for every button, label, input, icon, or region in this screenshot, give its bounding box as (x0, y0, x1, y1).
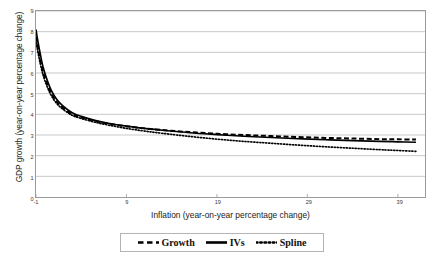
x-axis-tick-label: 9 (125, 199, 128, 205)
x-axis-tick-label: 19 (215, 199, 221, 205)
legend-item-spline[interactable]: Spline (256, 237, 307, 248)
x-axis-tick-label: 39 (397, 199, 403, 205)
y-axis-tick-label: 2 (30, 154, 33, 160)
x-axis-tick-label: -1 (34, 199, 39, 205)
plot-area: 0123456789-19192939 (35, 10, 426, 198)
series-line-ivs (36, 30, 416, 143)
y-axis-tick-label: 3 (30, 133, 33, 139)
x-axis-title: Inflation (year-on-year percentage chang… (35, 210, 426, 220)
legend-item-growth[interactable]: Growth (138, 237, 195, 248)
y-axis-tick-label: 4 (30, 112, 33, 118)
legend-item-ivs[interactable]: IVs (206, 237, 245, 248)
x-axis-tick-label: 29 (306, 199, 312, 205)
legend-key-solid-icon (206, 238, 227, 247)
y-axis-tick-label: 1 (30, 175, 33, 181)
series-line-growth (36, 37, 416, 140)
y-axis-tick-label: 8 (30, 29, 33, 35)
y-axis-tick-label: 7 (30, 50, 33, 56)
chart-legend: GrowthIVsSpline (120, 233, 324, 252)
y-axis-tick-label: 6 (30, 71, 33, 77)
y-axis-title: GDP growth (year-on-year percentage chan… (14, 2, 24, 192)
chart-figure: GDP growth (year-on-year percentage chan… (0, 0, 436, 260)
legend-label: Spline (280, 237, 307, 248)
legend-key-dashed-icon (138, 238, 159, 247)
legend-label: IVs (230, 237, 245, 248)
legend-label: Growth (162, 237, 195, 248)
y-axis-tick-label: 9 (30, 8, 33, 14)
data-series (36, 11, 425, 197)
y-axis-tick-label: 5 (30, 92, 33, 98)
legend-key-dotted-icon (256, 238, 277, 247)
